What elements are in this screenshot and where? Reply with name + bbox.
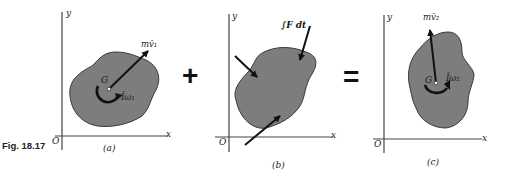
plus-operator: + xyxy=(182,62,198,90)
y-axis-label-a: y xyxy=(66,8,71,18)
origin-label-c: O xyxy=(374,139,381,149)
panel-caption-a: (a) xyxy=(103,143,115,153)
x-axis-label-a: x xyxy=(166,129,171,139)
angular-momentum-label-a: Īω₁ xyxy=(121,92,135,102)
x-axis-label-b: x xyxy=(331,130,336,140)
mass-center-label-c: G xyxy=(425,75,432,85)
panel-caption-c: (c) xyxy=(427,157,439,167)
mass-center-c xyxy=(434,81,438,85)
panel-a xyxy=(55,12,168,150)
origin-label-a: O xyxy=(52,136,59,146)
panel-b xyxy=(215,14,333,152)
y-axis-label-c: y xyxy=(387,12,392,22)
mass-center-label-a: G xyxy=(101,75,108,85)
x-axis-label-c: x xyxy=(482,133,487,143)
panel-caption-b: (b) xyxy=(272,160,285,170)
rigid-body-a xyxy=(70,52,159,127)
impulse-label: ∫F dt xyxy=(281,20,306,30)
angular-momentum-label-c: Īω₂ xyxy=(446,73,460,83)
origin-label-b: O xyxy=(219,137,226,147)
mass-center-a xyxy=(107,87,111,91)
y-axis-label-b: y xyxy=(232,11,237,21)
rigid-body-b xyxy=(235,48,316,129)
rigid-body-c xyxy=(408,32,474,128)
linear-momentum-label-a: mv̄₁ xyxy=(141,39,157,49)
figure-label: Fig. 18.17 xyxy=(2,140,45,151)
linear-momentum-label-c: mv̄₂ xyxy=(423,12,439,22)
equals-operator: = xyxy=(343,63,359,91)
